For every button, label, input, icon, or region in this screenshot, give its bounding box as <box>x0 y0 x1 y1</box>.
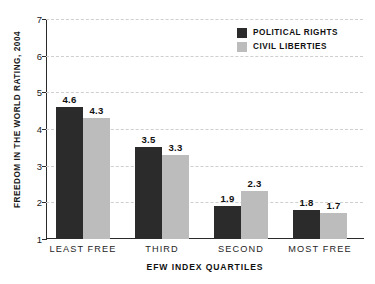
y-axis-tick-label: 5 <box>28 87 42 98</box>
bar[interactable] <box>56 107 83 239</box>
y-axis-tick-mark <box>42 19 46 20</box>
bar[interactable] <box>241 191 268 239</box>
x-axis-category-label: SECOND <box>196 244 286 254</box>
legend-swatch-icon <box>237 42 247 52</box>
legend: POLITICAL RIGHTSCIVIL LIBERTIES <box>237 27 338 55</box>
x-axis-category-label: LEAST FREE <box>38 244 128 254</box>
legend-item[interactable]: CIVIL LIBERTIES <box>237 41 338 52</box>
y-axis-tick-mark <box>42 92 46 93</box>
y-axis-tick-label: 1 <box>28 234 42 245</box>
y-axis-tick-label: 2 <box>28 197 42 208</box>
y-axis-tick-label: 4 <box>28 124 42 135</box>
y-axis-title: FREEDOM IN THE WORLD RATING, 2004 <box>13 10 22 230</box>
y-axis-tick-labels: 1234567 <box>26 0 42 284</box>
bar[interactable] <box>293 210 320 239</box>
y-axis-tick-mark <box>42 202 46 203</box>
bar[interactable] <box>135 147 162 239</box>
y-axis-tick-mark <box>42 239 46 240</box>
bar[interactable] <box>320 213 347 239</box>
y-axis-tick-label: 3 <box>28 160 42 171</box>
x-axis-category-label: THIRD <box>117 244 207 254</box>
bar-chart: FREEDOM IN THE WORLD RATING, 2004 123456… <box>0 0 375 284</box>
y-axis-tick-mark <box>42 56 46 57</box>
bar[interactable] <box>162 155 189 239</box>
y-axis-tick-mark <box>42 166 46 167</box>
y-axis-tick-label: 6 <box>28 50 42 61</box>
legend-item[interactable]: POLITICAL RIGHTS <box>237 27 338 38</box>
y-axis-tick-mark <box>42 129 46 130</box>
bar-group <box>135 19 189 239</box>
legend-item-label: POLITICAL RIGHTS <box>253 28 338 37</box>
y-axis-tick-label: 7 <box>28 14 42 25</box>
bar[interactable] <box>83 118 110 239</box>
legend-swatch-icon <box>237 28 247 38</box>
x-axis-category-label: MOST FREE <box>275 244 365 254</box>
bar-group <box>56 19 110 239</box>
bar[interactable] <box>214 206 241 239</box>
x-axis-title: EFW INDEX QUARTILES <box>46 262 364 272</box>
legend-item-label: CIVIL LIBERTIES <box>253 42 327 51</box>
